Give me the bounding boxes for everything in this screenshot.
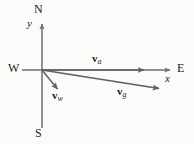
y-axis-label: y bbox=[27, 18, 32, 29]
vector-vg-subscript: g bbox=[123, 90, 127, 99]
compass-label-east: E bbox=[177, 62, 184, 74]
vector-diagram-figure: N S W E y x va vw vg bbox=[0, 0, 194, 144]
vector-label-vw: vw bbox=[52, 90, 63, 103]
vector-label-va: va bbox=[92, 53, 102, 66]
vector-vg-arrow bbox=[42, 70, 159, 89]
compass-label-north: N bbox=[34, 3, 43, 15]
compass-label-south: S bbox=[35, 127, 42, 139]
vector-va-subscript: a bbox=[98, 57, 102, 66]
vector-label-vg: vg bbox=[117, 86, 127, 99]
x-axis-label: x bbox=[165, 73, 170, 84]
compass-label-west: W bbox=[8, 62, 19, 74]
vector-vw-subscript: w bbox=[58, 94, 63, 103]
vector-vw-arrow bbox=[42, 70, 58, 89]
